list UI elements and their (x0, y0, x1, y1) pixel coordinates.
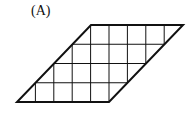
parallelogram-grid (0, 0, 186, 119)
